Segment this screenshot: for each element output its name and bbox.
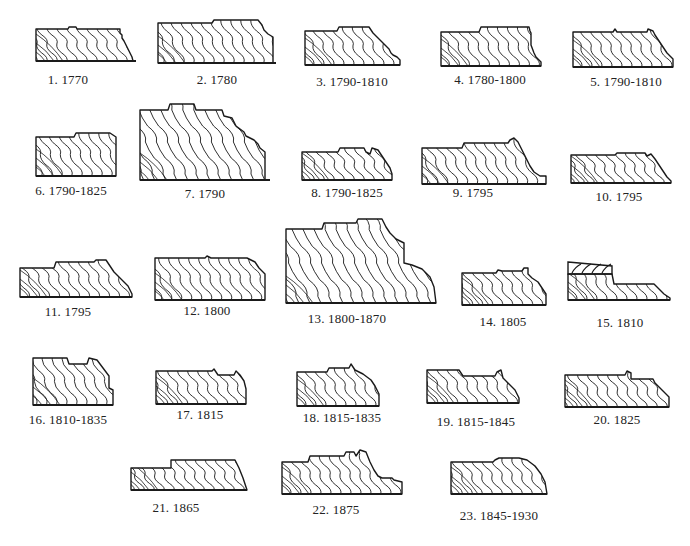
profile-caption-6: 6. 1790-1825 [35,183,107,199]
molding-profile-13 [286,223,436,303]
profile-caption-11: 11. 1795 [45,304,92,320]
profile-drawing [140,96,278,182]
molding-profile-6 [36,133,116,176]
profile-drawing [155,250,273,302]
profile-caption-15: 15. 1810 [596,315,643,331]
molding-profile-18 [297,368,379,406]
profile-drawing [422,132,554,186]
profile-caption-21: 21. 1865 [152,500,199,516]
profile-caption-13: 13. 1800-1870 [308,311,386,327]
profile-caption-3: 3. 1790-1810 [316,74,388,90]
profile-drawing [568,254,678,302]
molding-profile-19 [427,368,519,403]
molding-profile-5 [573,29,673,67]
profile-caption-23: 23. 1845-1930 [460,508,538,524]
profile-drawing [156,363,254,406]
profile-drawing [462,262,554,307]
molding-profile-10 [571,153,671,183]
profile-caption-7: 7. 1790 [185,186,225,202]
molding-profile-16 [33,358,113,405]
profile-caption-17: 17. 1815 [176,407,223,423]
molding-profile-9 [422,140,546,184]
profile-drawing [131,452,255,492]
profile-drawing [565,367,677,409]
profile-drawing [305,19,408,67]
profile-drawing [302,140,400,182]
molding-profile-15 [568,262,670,300]
profile-caption-16: 16. 1810-1835 [29,412,107,428]
molding-profile-8 [302,148,392,180]
profile-drawing [286,215,444,305]
molding-profile-11 [20,260,132,297]
molding-profile-2 [158,20,276,63]
profile-caption-10: 10. 1795 [595,189,642,205]
molding-profile-17 [156,371,246,404]
profile-drawing [573,21,681,69]
molding-profiles-figure: 1. 1770 2. 1780 3. 1790-1810 4. 1780-180… [0,0,690,546]
profile-drawing [571,145,679,185]
profile-caption-22: 22. 1875 [312,502,359,518]
molding-profile-12 [155,258,265,300]
profile-caption-20: 20. 1825 [593,412,640,428]
molding-profile-21 [131,460,247,490]
profile-drawing [158,12,284,65]
molding-profile-22 [282,456,402,494]
profile-drawing [297,360,387,408]
profile-caption-19: 19. 1815-1845 [437,414,515,430]
profile-drawing [427,360,527,405]
molding-profile-23 [451,460,547,494]
profile-caption-2: 2. 1780 [197,72,237,88]
profile-caption-14: 14. 1805 [479,314,526,330]
profile-drawing [451,452,555,496]
molding-profile-1 [36,27,136,61]
molding-profile-7 [140,104,270,180]
profile-drawing [282,448,410,496]
profile-caption-12: 12. 1800 [183,303,230,319]
profile-drawing [33,350,121,407]
profile-caption-4: 4. 1780-1800 [454,72,526,88]
profile-drawing [441,19,549,68]
profile-caption-1: 1. 1770 [48,72,88,88]
profile-caption-9: 9. 1795 [453,185,493,201]
profile-caption-5: 5. 1790-1810 [590,74,662,90]
profile-drawing [20,252,140,299]
profile-caption-8: 8. 1790-1825 [311,185,383,201]
molding-profile-4 [441,27,541,66]
molding-profile-20 [565,375,669,407]
molding-profile-3 [305,27,400,65]
profile-caption-18: 18. 1815-1835 [303,410,381,426]
molding-profile-14 [462,270,546,305]
profile-drawing [36,19,144,63]
profile-drawing [36,125,124,178]
